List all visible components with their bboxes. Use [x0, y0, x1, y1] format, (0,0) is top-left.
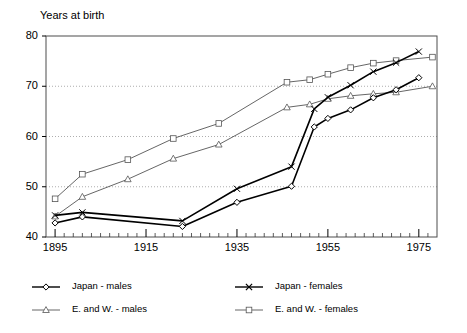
data-point-square: [52, 196, 58, 202]
series-japan-females: [52, 48, 422, 224]
x-axis-tick-label: 1895: [32, 241, 78, 253]
data-point-diamond: [416, 75, 422, 81]
y-axis-tick-label: 70: [12, 79, 38, 91]
data-point-cross: [416, 48, 422, 54]
legend-item-label: Japan - males: [72, 280, 132, 291]
y-axis-tick-label: 60: [12, 130, 38, 142]
data-point-triangle: [43, 307, 50, 313]
legend-marker-cross-icon: [233, 281, 269, 293]
y-axis-tick-label: 80: [12, 29, 38, 41]
data-point-cross: [370, 69, 376, 75]
data-point-triangle: [429, 83, 436, 89]
data-point-diamond: [348, 107, 354, 113]
data-point-diamond: [179, 223, 185, 229]
data-point-triangle: [125, 176, 132, 182]
data-point-diamond: [234, 199, 240, 205]
x-axis-tick-label: 1915: [123, 241, 169, 253]
series-line: [55, 57, 432, 199]
legend-marker-diamond-icon: [30, 281, 66, 293]
life-expectancy-chart: Years at birth 4050607080 18951915193519…: [0, 0, 467, 333]
data-point-square: [307, 77, 313, 83]
data-point-diamond: [43, 284, 49, 290]
series-japan-males: [52, 75, 422, 230]
x-axis-tick-label: 1935: [214, 241, 260, 253]
data-point-diamond: [52, 220, 58, 226]
data-point-square: [284, 79, 290, 85]
data-point-square: [371, 60, 377, 66]
legend-item-label: E. and W. - females: [275, 303, 358, 314]
data-point-square: [430, 54, 436, 60]
data-point-square: [80, 171, 86, 177]
series-line: [55, 86, 432, 216]
data-point-cross: [348, 82, 354, 88]
legend-marker-square-icon: [233, 304, 269, 316]
x-axis-tick-label: 1975: [396, 241, 442, 253]
data-point-square: [171, 136, 177, 142]
legend-item-label: Japan - females: [275, 280, 343, 291]
legend-marker-triangle-icon: [30, 304, 66, 316]
data-point-square: [216, 121, 222, 127]
chart-axis-title: Years at birth: [40, 9, 104, 21]
series-e-and-w-males: [52, 83, 436, 219]
legend-item-label: E. and W. - males: [72, 303, 147, 314]
y-axis-tick-label: 50: [12, 180, 38, 192]
series-e-and-w-females: [52, 54, 435, 201]
x-axis-tick-label: 1955: [305, 241, 351, 253]
data-point-square: [325, 71, 331, 77]
data-point-cross: [234, 186, 240, 192]
data-point-triangle: [215, 141, 222, 147]
data-point-diamond: [288, 183, 294, 189]
data-point-square: [125, 157, 131, 163]
data-point-square: [246, 307, 252, 313]
data-point-square: [348, 65, 354, 71]
